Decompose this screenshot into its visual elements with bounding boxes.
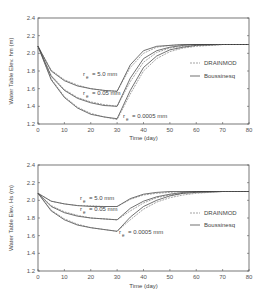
x-tick-label: 0 <box>36 274 40 280</box>
figure: 010203040506070801.21.41.61.82.02.22.4Ti… <box>0 0 266 304</box>
legend-drainmod-label: DRAINMOD <box>204 60 237 66</box>
y-tick-label: 2.2 <box>27 33 36 39</box>
y-tick-label: 1.2 <box>27 268 36 274</box>
x-tick-label: 70 <box>219 127 226 133</box>
re-label-symbol: r <box>83 71 85 77</box>
re-label-value: = 0.0005 mm <box>132 113 167 119</box>
re-label-symbol: r <box>119 229 121 235</box>
x-tick-label: 20 <box>87 127 94 133</box>
y-tick-label: 2.0 <box>27 197 36 203</box>
y-tick-label: 1.4 <box>27 103 36 109</box>
re-label-value: = 0.05 mm <box>92 90 121 96</box>
x-tick-label: 10 <box>61 274 68 280</box>
x-axis-title: Time (day) <box>129 283 157 289</box>
y-axis-title: Water Table Elev. hm (m) <box>8 38 14 105</box>
legend-boussinesq-label: Boussinesq <box>204 73 235 79</box>
x-tick-label: 40 <box>140 274 147 280</box>
legend-drainmod-label: DRAINMOD <box>204 210 237 216</box>
legend-boussinesq-label: Boussinesq <box>204 222 235 228</box>
plot-frame <box>38 165 249 271</box>
x-tick-label: 30 <box>114 127 121 133</box>
y-tick-label: 1.6 <box>27 233 36 239</box>
y-tick-label: 2.4 <box>27 162 36 168</box>
y-tick-label: 2.2 <box>27 180 36 186</box>
re-label-value: = 0.05 mm <box>89 206 118 212</box>
x-tick-label: 50 <box>167 127 174 133</box>
re-label-symbol: r <box>123 113 125 119</box>
y-tick-label: 2.4 <box>27 15 36 21</box>
x-tick-label: 0 <box>36 127 40 133</box>
x-tick-label: 20 <box>87 274 94 280</box>
re-label-subscript: e <box>83 199 86 204</box>
x-tick-label: 70 <box>219 274 226 280</box>
y-tick-label: 1.6 <box>27 86 36 92</box>
y-tick-label: 2.0 <box>27 50 36 56</box>
re-label-subscript: e <box>83 210 86 215</box>
re-label-subscript: e <box>122 233 125 238</box>
y-tick-label: 1.8 <box>27 215 36 221</box>
re-label-symbol: r <box>80 195 82 201</box>
x-tick-label: 50 <box>167 274 174 280</box>
x-tick-label: 30 <box>114 274 121 280</box>
x-tick-label: 80 <box>246 127 253 133</box>
re-label-subscript: e <box>86 75 89 80</box>
re-label-value: = 5.0 mm <box>92 71 117 77</box>
re-label-value: = 5.0 mm <box>89 195 114 201</box>
y-axis-title: Water Table Elev. Hs (m) <box>8 185 14 251</box>
x-tick-label: 40 <box>140 127 147 133</box>
re-label-subscript: e <box>126 117 129 122</box>
re-label-value: = 0.0005 mm <box>128 229 163 235</box>
x-tick-label: 60 <box>193 274 200 280</box>
x-axis-title: Time (day) <box>129 135 157 141</box>
boussinesq-line <box>38 192 249 207</box>
y-tick-label: 1.8 <box>27 68 36 74</box>
x-tick-label: 80 <box>246 274 253 280</box>
y-tick-label: 1.4 <box>27 250 36 256</box>
x-tick-label: 60 <box>193 127 200 133</box>
re-label-subscript: e <box>86 94 89 99</box>
x-tick-label: 10 <box>61 127 68 133</box>
y-tick-label: 1.2 <box>27 121 36 127</box>
re-label-symbol: r <box>80 206 82 212</box>
re-label-symbol: r <box>83 90 85 96</box>
